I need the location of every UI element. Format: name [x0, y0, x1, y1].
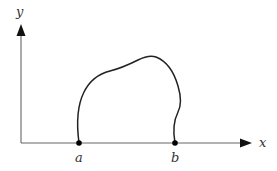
curve-path	[78, 56, 181, 143]
point-b-dot	[172, 140, 178, 146]
point-b-label: b	[171, 150, 179, 165]
diagram-canvas: y x a b	[0, 0, 277, 171]
point-b: b	[171, 140, 179, 165]
point-a: a	[75, 140, 83, 165]
x-axis-arrow-icon	[240, 139, 252, 148]
point-a-dot	[76, 140, 82, 146]
y-axis-arrow-icon	[17, 24, 26, 36]
point-a-label: a	[75, 150, 83, 165]
y-axis-label: y	[15, 4, 24, 19]
y-axis: y	[15, 4, 26, 143]
x-axis-label: x	[259, 135, 267, 150]
x-axis: x	[21, 135, 267, 150]
